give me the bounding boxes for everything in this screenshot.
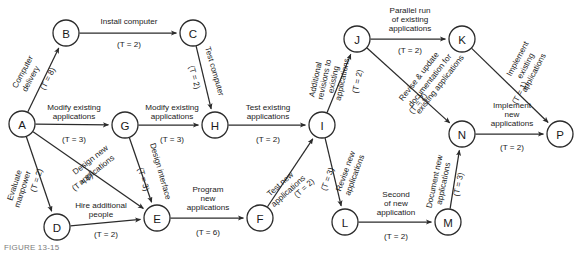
edge-label-g-h: applications <box>151 112 194 121</box>
edge-label-j-k: Parallel run <box>390 6 431 15</box>
edge-duration-b-c: (T = 2) <box>117 40 141 49</box>
edge-d-e <box>70 219 140 225</box>
edge-duration-n-p: (T = 2) <box>500 143 524 152</box>
edge-duration-a-d: (T = 2) <box>29 167 45 193</box>
node-h[interactable]: H <box>202 112 228 138</box>
node-label-n: N <box>458 129 466 141</box>
edge-duration-i-j: (T = 2) <box>351 69 365 95</box>
edge-label-a-g: applications <box>53 112 96 121</box>
node-label-j: J <box>354 34 360 46</box>
edge-label-g-e: Design interface <box>148 142 173 201</box>
edge-duration-d-e: (T = 2) <box>94 230 118 239</box>
node-k[interactable]: K <box>449 26 475 52</box>
edge-label-d-e: people <box>89 210 114 219</box>
node-label-p: P <box>556 129 564 141</box>
node-m[interactable]: M <box>435 209 461 235</box>
edge-label-e-f: new <box>201 194 216 203</box>
node-p[interactable]: P <box>547 121 573 147</box>
network-diagram-canvas: Computerdelivery(T = 8)Install computer(… <box>0 0 582 256</box>
network-diagram: Computerdelivery(T = 8)Install computer(… <box>0 0 582 256</box>
edge-label-e-f: applications <box>187 203 230 212</box>
edge-label-n-p: new <box>505 110 520 119</box>
node-f[interactable]: F <box>247 205 273 231</box>
edge-duration-g-e: (T = 3) <box>136 167 151 193</box>
edge-duration-m-n: (T = 3) <box>452 172 466 198</box>
edge-duration-h-i: (T = 2) <box>256 135 280 144</box>
edge-duration-c-h: (T = 2) <box>187 65 202 91</box>
edge-label-l-m: application <box>377 208 416 217</box>
edge-duration-j-k: (T = 2) <box>398 46 422 55</box>
node-label-b: B <box>62 28 70 40</box>
node-e[interactable]: E <box>144 205 170 231</box>
node-i[interactable]: I <box>309 112 335 138</box>
edge-label-h-i: Test existing <box>246 103 291 112</box>
edge-label-a-g: Modify existing <box>47 103 101 112</box>
node-label-g: G <box>121 120 130 132</box>
node-n[interactable]: N <box>449 121 475 147</box>
edge-label-n-p: Implement <box>493 101 532 110</box>
edge-duration-e-f: (T = 6) <box>196 228 220 237</box>
node-b[interactable]: B <box>53 20 79 46</box>
edge-label-b-c: Install computer <box>100 17 157 26</box>
node-label-d: D <box>53 222 61 234</box>
node-l[interactable]: L <box>332 209 358 235</box>
edge-duration-i-l: (T = 3) <box>319 166 336 192</box>
edge-label-d-e: Hire additional <box>75 201 127 210</box>
node-d[interactable]: D <box>44 214 70 240</box>
node-label-f: F <box>256 213 263 225</box>
edge-duration-g-h: (T = 3) <box>160 135 184 144</box>
node-label-l: L <box>342 217 349 229</box>
edge-duration-a-b: (T = 8) <box>38 66 57 92</box>
edge-duration-l-m: (T = 2) <box>384 232 408 241</box>
edge-label-g-h: Modify existing <box>145 103 199 112</box>
edge-label-n-p: applications <box>491 119 534 128</box>
edge-label-j-k: of existing <box>392 15 428 24</box>
edge-label-l-m: Second <box>382 190 409 199</box>
node-a[interactable]: A <box>9 111 35 137</box>
node-g[interactable]: G <box>112 112 138 138</box>
edge-label-j-k: applications <box>389 24 432 33</box>
node-label-m: M <box>443 217 453 229</box>
node-label-i: I <box>320 120 323 132</box>
edge-label-e-f: Program <box>192 185 223 194</box>
edge-label-h-i: applications <box>247 112 290 121</box>
node-label-c: C <box>189 28 197 40</box>
node-label-a: A <box>18 119 26 131</box>
edge-a-g <box>35 124 108 125</box>
edge-label-l-m: of new <box>384 199 408 208</box>
edge-duration-a-g: (T = 3) <box>62 135 86 144</box>
node-j[interactable]: J <box>344 26 370 52</box>
node-label-e: E <box>153 213 161 225</box>
node-label-k: K <box>458 34 466 46</box>
node-label-h: H <box>211 120 219 132</box>
node-c[interactable]: C <box>180 20 206 46</box>
figure-caption: FIGURE 13-15 <box>4 243 59 252</box>
